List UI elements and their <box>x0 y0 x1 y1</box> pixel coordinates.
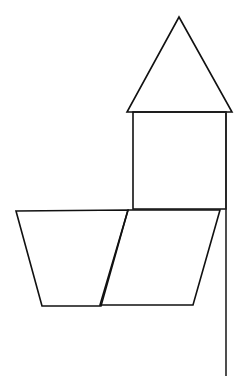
trapezoid-shape <box>16 210 128 306</box>
shapes-diagram <box>0 0 246 376</box>
square-shape <box>133 112 226 209</box>
triangle-shape <box>127 17 232 112</box>
parallelogram-shape <box>100 210 220 305</box>
